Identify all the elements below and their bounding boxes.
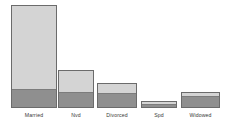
x-tick-label-spd: Spd bbox=[141, 112, 177, 119]
bar-segment-upper-married bbox=[12, 6, 56, 89]
plot-area bbox=[0, 0, 230, 108]
x-tick-label-nvd: Nvd bbox=[58, 112, 94, 119]
x-axis-tick-labels: Married Nvd Divorced Spd Widowed bbox=[0, 108, 230, 126]
bar-married[interactable] bbox=[11, 5, 57, 108]
x-tick-label-divorced: Divorced bbox=[97, 112, 137, 119]
bar-segment-lower-nvd bbox=[59, 92, 93, 107]
bar-group-married bbox=[11, 5, 57, 108]
x-tick-label-widowed: Widowed bbox=[181, 112, 220, 119]
bar-group-spd bbox=[141, 101, 177, 108]
x-tick-label-married: Married bbox=[11, 112, 57, 119]
bar-segment-lower-spd bbox=[142, 104, 176, 107]
bar-divorced[interactable] bbox=[97, 83, 137, 108]
stacked-bar-chart: Married Nvd Divorced Spd Widowed bbox=[0, 0, 230, 126]
bar-segment-lower-married bbox=[12, 89, 56, 107]
bar-widowed[interactable] bbox=[181, 92, 220, 108]
bar-group-divorced bbox=[97, 83, 137, 108]
bar-group-widowed bbox=[181, 92, 220, 108]
bar-spd[interactable] bbox=[141, 101, 177, 108]
bar-group-nvd bbox=[58, 70, 94, 108]
bar-segment-lower-widowed bbox=[182, 96, 219, 107]
bar-nvd[interactable] bbox=[58, 70, 94, 108]
bar-segment-upper-nvd bbox=[59, 71, 93, 92]
bar-segment-upper-divorced bbox=[98, 84, 136, 93]
bar-segment-lower-divorced bbox=[98, 93, 136, 107]
